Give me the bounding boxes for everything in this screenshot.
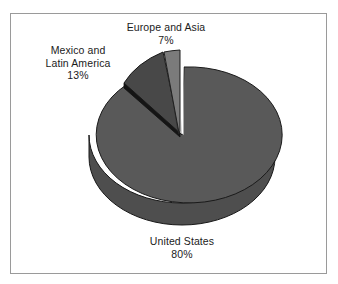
slice-label-europe-asia: Europe and Asia 7% — [106, 21, 226, 46]
slice-label-europe-asia-name: Europe and Asia — [127, 21, 206, 33]
slice-label-united-states-value: 80% — [122, 248, 242, 261]
pie-chart-figure: Europe and Asia 7% Mexico and Latin Amer… — [0, 0, 338, 284]
slice-label-united-states: United States 80% — [122, 235, 242, 260]
slice-label-mexico-value: 13% — [26, 69, 130, 82]
slice-separation-gap — [182, 50, 184, 135]
slice-label-mexico-line2: Latin America — [26, 57, 130, 70]
slice-label-united-states-name: United States — [150, 235, 214, 247]
slice-label-mexico-line1: Mexico and — [51, 44, 106, 56]
slice-label-mexico-latin-america: Mexico and Latin America 13% — [26, 44, 130, 82]
